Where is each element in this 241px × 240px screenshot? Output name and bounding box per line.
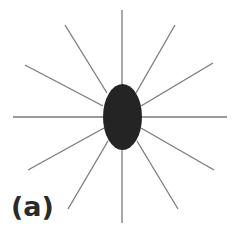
central-ellipse [103,84,142,150]
ray-line [141,128,214,170]
ray-line [141,63,213,106]
ray-line [65,25,107,93]
ray-line [68,141,108,209]
ray-line [28,128,104,170]
ray-line [25,65,103,106]
ray-line [136,25,175,93]
figure-label: (a) [11,193,54,220]
ray-line [137,141,178,209]
